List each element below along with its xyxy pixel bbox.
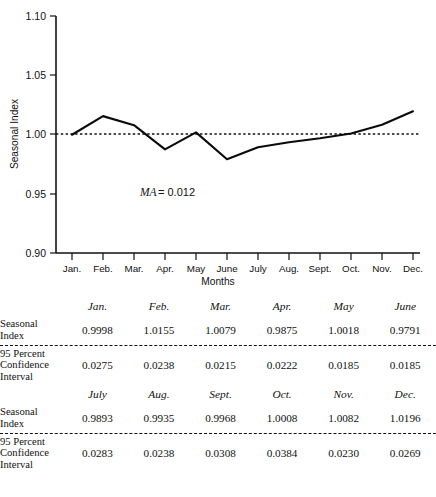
cell-ci-dec: 0.0269 — [374, 434, 436, 472]
cell-si-july: 0.9893 — [67, 403, 129, 433]
cell-si-dec: 1.0196 — [374, 403, 436, 433]
header-month-feb: Feb. — [128, 296, 190, 315]
x-tick-label-mar: Mar. — [124, 263, 143, 274]
cell-si-aug: 0.9935 — [128, 403, 190, 433]
header-spacer — [0, 384, 67, 403]
row-label-confidence-interval: 95 Percent Confidence Interval — [0, 346, 67, 384]
table-row: Seasonal Index 0.9998 1.0155 1.0079 0.98… — [0, 315, 436, 345]
header-month-mar: Mar. — [190, 296, 252, 315]
row-label-line2: Confidence — [0, 359, 67, 371]
y-tick-label-105: 1.05 — [26, 69, 47, 81]
x-tick-label-nov: Nov. — [372, 263, 391, 274]
seasonal-index-table: Months Jan. Feb. Mar. Apr. May June Seas… — [0, 276, 436, 497]
x-tick-label-may: May — [187, 263, 206, 274]
header-month-oct: Oct. — [251, 384, 313, 403]
x-tick-label-aug: Aug. — [279, 263, 299, 274]
x-axis-ticks — [72, 253, 413, 260]
row-label-seasonal-index: Seasonal Index — [0, 403, 67, 433]
table-header-row: July Aug. Sept. Oct. Nov. Dec. — [0, 384, 436, 403]
header-month-sept: Sept. — [190, 384, 252, 403]
row-label-line1: Seasonal — [0, 318, 67, 330]
y-tick-label-100: 1.00 — [26, 128, 47, 140]
cell-si-mar: 1.0079 — [190, 315, 252, 345]
cell-si-apr: 0.9875 — [251, 315, 313, 345]
cell-ci-june: 0.0185 — [374, 346, 436, 384]
y-tick-label-110: 1.10 — [26, 10, 47, 22]
cell-si-may: 1.0018 — [313, 315, 375, 345]
cell-ci-mar: 0.0215 — [190, 346, 252, 384]
row-label-line1: 95 Percent — [0, 436, 67, 448]
x-tick-label-june: June — [216, 263, 238, 274]
table-block-first-half: Jan. Feb. Mar. Apr. May June Seasonal In… — [0, 296, 436, 384]
row-label-line3: Interval — [0, 459, 67, 471]
table-block-second-half: July Aug. Sept. Oct. Nov. Dec. Seasonal … — [0, 384, 436, 472]
row-label-confidence-interval: 95 Percent Confidence Interval — [0, 434, 67, 472]
cell-ci-jan: 0.0275 — [67, 346, 129, 384]
y-axis-title: Seasonal Index — [9, 99, 20, 169]
header-month-aug: Aug. — [128, 384, 190, 403]
seasonal-index-series — [72, 111, 413, 159]
y-tick-label-095: 0.95 — [26, 188, 47, 200]
x-tick-label-july: July — [249, 263, 267, 274]
cell-ci-aug: 0.0238 — [128, 434, 190, 472]
row-label-line1: 95 Percent — [0, 348, 67, 360]
row-label-line2: Index — [0, 330, 67, 342]
table-caption-months: Months — [0, 276, 436, 287]
table-row: Seasonal Index 0.9893 0.9935 0.9968 1.00… — [0, 403, 436, 433]
x-tick-label-dec: Dec. — [403, 263, 423, 274]
table-row: 95 Percent Confidence Interval 0.0275 0.… — [0, 346, 436, 384]
cell-ci-oct: 0.0384 — [251, 434, 313, 472]
y-tick-label-090: 0.90 — [26, 247, 47, 259]
header-month-june: June — [374, 296, 436, 315]
cell-si-sept: 0.9968 — [190, 403, 252, 433]
row-label-line2: Confidence — [0, 447, 67, 459]
x-tick-label-oct: Oct. — [342, 263, 360, 274]
row-label-line2: Index — [0, 418, 67, 430]
row-label-seasonal-index: Seasonal Index — [0, 315, 67, 345]
header-month-jan: Jan. — [67, 296, 129, 315]
cell-si-oct: 1.0008 — [251, 403, 313, 433]
header-month-july: July — [67, 384, 129, 403]
cell-si-june: 0.9791 — [374, 315, 436, 345]
cell-ci-sept: 0.0308 — [190, 434, 252, 472]
header-month-apr: Apr. — [251, 296, 313, 315]
table-header-row: Jan. Feb. Mar. Apr. May June — [0, 296, 436, 315]
cell-si-nov: 1.0082 — [313, 403, 375, 433]
cell-si-jan: 0.9998 — [67, 315, 129, 345]
header-month-may: May — [313, 296, 375, 315]
annotation-ma-symbol: MA — [139, 186, 158, 198]
y-axis-ticks — [50, 16, 56, 253]
x-tick-label-sept: Sept. — [309, 263, 332, 274]
table-row: 95 Percent Confidence Interval 0.0283 0.… — [0, 434, 436, 472]
header-spacer — [0, 296, 67, 315]
cell-si-feb: 1.0155 — [128, 315, 190, 345]
cell-ci-may: 0.0185 — [313, 346, 375, 384]
cell-ci-feb: 0.0238 — [128, 346, 190, 384]
x-tick-label-feb: Feb. — [93, 263, 113, 274]
x-tick-label-apr: Apr. — [156, 263, 173, 274]
chart-canvas: 1.10 1.05 1.00 0.95 0.90 Seasonal Index … — [0, 0, 436, 276]
cell-ci-july: 0.0283 — [67, 434, 129, 472]
row-label-line3: Interval — [0, 371, 67, 383]
annotation-ma-value: = 0.012 — [158, 186, 195, 198]
row-label-line1: Seasonal — [0, 406, 67, 418]
header-month-dec: Dec. — [374, 384, 436, 403]
seasonal-index-chart: 1.10 1.05 1.00 0.95 0.90 Seasonal Index … — [0, 0, 436, 276]
cell-ci-apr: 0.0222 — [251, 346, 313, 384]
x-tick-label-jan: Jan. — [63, 263, 82, 274]
cell-ci-nov: 0.0230 — [313, 434, 375, 472]
header-month-nov: Nov. — [313, 384, 375, 403]
